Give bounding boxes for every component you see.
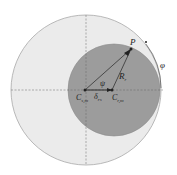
point-p [130, 48, 133, 51]
point-cr [111, 89, 114, 92]
phi-arc-marker [145, 41, 147, 43]
point-cs [84, 89, 87, 92]
label-p: P [129, 37, 136, 47]
label-phi: φ [160, 60, 165, 70]
eccentric-circles-diagram: P φ ψ Rr Cs,m δrs Cr,m [0, 0, 177, 175]
